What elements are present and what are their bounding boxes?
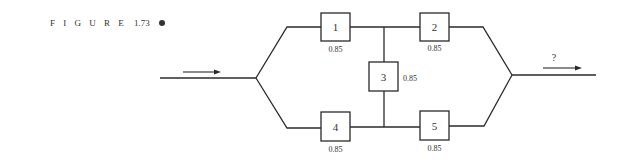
component-reliability: 0.85 [329, 145, 343, 154]
right-fork-top [449, 27, 512, 75]
component-5: 5 0.85 [420, 111, 449, 153]
component-label: 1 [333, 21, 339, 33]
output-arrow-icon [543, 66, 582, 71]
component-4: 4 0.85 [321, 112, 350, 154]
component-label: 3 [381, 71, 387, 83]
component-label: 5 [432, 120, 438, 132]
component-label: 2 [432, 21, 438, 33]
input-arrow-icon [183, 70, 221, 75]
left-fork-bottom [256, 78, 321, 128]
left-fork-top [256, 27, 321, 78]
right-fork-bottom [449, 75, 512, 126]
component-2: 2 0.85 [420, 13, 449, 53]
component-reliability: 0.85 [428, 144, 442, 153]
component-3: 3 0.85 [369, 62, 417, 91]
component-label: 4 [333, 121, 339, 133]
output-label: ? [552, 52, 557, 63]
component-reliability: 0.85 [329, 45, 343, 54]
component-1: 1 0.85 [321, 13, 350, 54]
component-reliability: 0.85 [403, 74, 417, 83]
reliability-diagram: ? 1 0.85 2 0.85 3 0.85 4 0.85 5 0.85 [0, 0, 617, 165]
component-reliability: 0.85 [428, 44, 442, 53]
